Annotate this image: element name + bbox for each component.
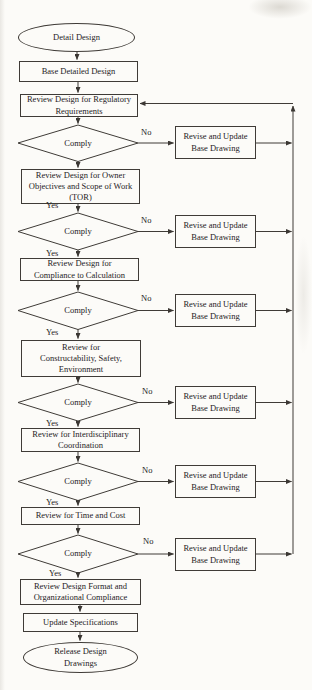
decision-comply-1-shape xyxy=(18,125,138,162)
node-base-detailed-design: Base Detailed Design xyxy=(19,61,138,82)
node-revise-update-6: Revise and Update Base Drawing xyxy=(175,538,256,571)
label-yes-2: Yes xyxy=(46,249,58,258)
flowchart-canvas: Detail Design Base Detailed Design Revie… xyxy=(0,0,312,690)
decision-comply-5-shape xyxy=(18,463,138,501)
node-update-specifications-label: Update Specifications xyxy=(43,617,118,628)
decision-comply-3-shape xyxy=(18,292,138,330)
label-no-4: No xyxy=(142,387,152,396)
node-revise-update-3-label: Revise and Update Base Drawing xyxy=(183,299,247,321)
label-no-6: No xyxy=(143,537,153,546)
decision-comply-4-shape xyxy=(18,384,138,421)
node-revise-update-6-label: Revise and Update Base Drawing xyxy=(183,543,247,565)
node-revise-update-1: Revise and Update Base Drawing xyxy=(175,126,256,159)
node-review-owner-objectives: Review Design for Owner Objectives and S… xyxy=(21,169,140,204)
decision-comply-2-shape xyxy=(18,213,138,250)
node-review-time-cost: Review for Time and Cost xyxy=(21,507,140,525)
node-review-regulatory-label: Review Design for Regulatory Requirement… xyxy=(27,94,131,116)
node-review-owner-objectives-label: Review Design for Owner Objectives and S… xyxy=(29,170,133,204)
node-release-design-drawings: Release Design Drawings xyxy=(23,642,138,673)
label-no-1: No xyxy=(141,128,151,137)
node-review-time-cost-label: Review for Time and Cost xyxy=(36,510,126,521)
node-review-constructability: Review for Constructability, Safety, Env… xyxy=(21,340,141,377)
node-revise-update-5-label: Revise and Update Base Drawing xyxy=(183,470,247,492)
node-base-detailed-design-label: Base Detailed Design xyxy=(42,66,116,77)
label-yes-4: Yes xyxy=(46,419,58,428)
label-yes-3: Yes xyxy=(46,328,58,337)
node-revise-update-5: Revise and Update Base Drawing xyxy=(175,465,256,498)
node-revise-update-1-label: Revise and Update Base Drawing xyxy=(183,131,247,153)
node-revise-update-3: Revise and Update Base Drawing xyxy=(175,294,256,327)
node-revise-update-4-label: Revise and Update Base Drawing xyxy=(183,391,247,413)
node-review-constructability-label: Review for Constructability, Safety, Env… xyxy=(40,342,122,376)
node-review-interdisciplinary: Review for Interdisciplinary Coordinatio… xyxy=(21,428,140,452)
node-revise-update-4: Revise and Update Base Drawing xyxy=(175,386,256,419)
node-detail-design: Detail Design xyxy=(18,23,135,52)
label-no-2: No xyxy=(141,216,151,225)
label-no-5: No xyxy=(142,466,152,475)
node-detail-design-label: Detail Design xyxy=(53,32,100,43)
node-release-design-drawings-label: Release Design Drawings xyxy=(54,646,107,668)
node-update-specifications: Update Specifications xyxy=(23,613,138,632)
label-yes-6: Yes xyxy=(49,569,61,578)
label-yes-1: Yes xyxy=(46,201,58,210)
node-review-design-format-label: Review Design Format and Organizational … xyxy=(34,581,128,603)
node-review-interdisciplinary-label: Review for Interdisciplinary Coordinatio… xyxy=(32,429,128,451)
node-review-design-format: Review Design Format and Organizational … xyxy=(20,579,141,605)
node-review-compliance-calculation: Review Design for Compliance to Calculat… xyxy=(20,258,139,281)
node-revise-update-2-label: Revise and Update Base Drawing xyxy=(183,220,247,242)
decision-comply-6-shape xyxy=(18,535,138,573)
node-revise-update-2: Revise and Update Base Drawing xyxy=(175,215,256,248)
label-yes-5: Yes xyxy=(46,498,58,507)
label-no-3: No xyxy=(141,294,151,303)
node-review-regulatory: Review Design for Regulatory Requirement… xyxy=(20,94,138,117)
node-review-compliance-calculation-label: Review Design for Compliance to Calculat… xyxy=(34,258,125,280)
